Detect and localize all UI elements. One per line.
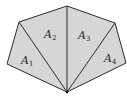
label-a4-subscript: 4: [112, 58, 116, 66]
label-a2-letter: A: [44, 28, 52, 41]
label-a1: A1: [21, 55, 33, 68]
label-a3-subscript: 3: [86, 35, 90, 43]
label-a1-subscript: 1: [29, 60, 33, 68]
bottom-vertex-dot: [66, 91, 69, 94]
label-a4-letter: A: [104, 52, 112, 65]
label-a2-subscript: 2: [52, 34, 56, 42]
label-a1-letter: A: [21, 54, 29, 67]
label-a2: A2: [44, 29, 56, 42]
label-a3-letter: A: [78, 29, 86, 42]
label-a4: A4: [104, 53, 116, 66]
hexagon-triangle-diagram: A1 A2 A3 A4: [0, 0, 127, 107]
label-a3: A3: [78, 30, 90, 43]
